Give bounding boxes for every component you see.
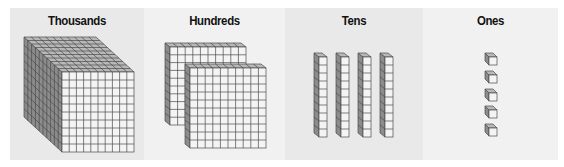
ones-unit-blocks <box>485 53 497 136</box>
tens-rod-blocks <box>314 53 393 137</box>
hundreds-flat-blocks <box>165 43 266 148</box>
thousands-cube-block <box>24 37 134 152</box>
